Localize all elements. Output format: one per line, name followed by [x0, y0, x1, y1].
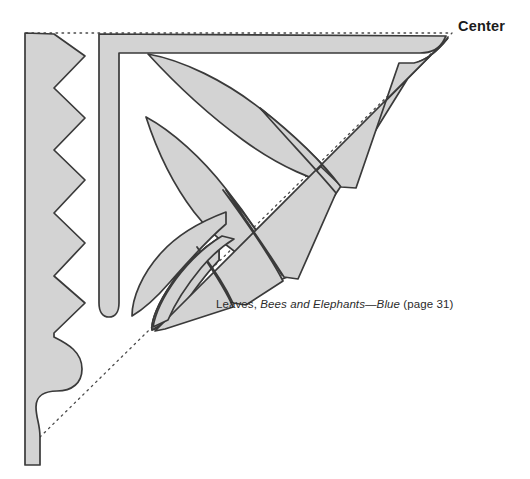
- pattern-figure: Center Leaves, Bees and Elephants—Blue (…: [0, 0, 530, 479]
- caption-prefix: Leaves,: [216, 298, 260, 310]
- center-label: Center: [458, 18, 505, 34]
- zigzag-border-strip: [25, 33, 85, 465]
- pattern-drawing: [0, 0, 530, 479]
- pattern-pieces: [25, 33, 448, 465]
- pattern-caption: Leaves, Bees and Elephants—Blue (page 31…: [216, 298, 453, 310]
- caption-book-title: Bees and Elephants—Blue: [260, 298, 400, 310]
- caption-suffix: (page 31): [400, 298, 453, 310]
